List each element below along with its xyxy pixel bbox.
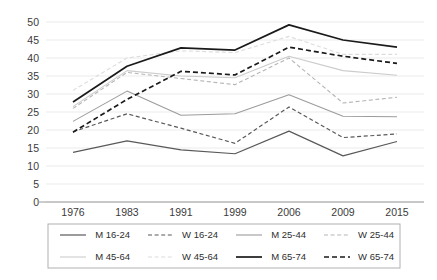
series-line-w-25-44 <box>73 58 397 108</box>
chart-canvas: 05101520253035404550 1976198319911999200… <box>0 0 437 280</box>
y-tick-label: 15 <box>27 142 39 154</box>
legend-label: M 65-74 <box>271 251 306 262</box>
y-axis-ticks: 05101520253035404550 <box>27 16 39 208</box>
legend-label: W 25-44 <box>358 229 394 240</box>
x-tick-label: 1991 <box>169 206 193 218</box>
y-tick-label: 30 <box>27 88 39 100</box>
x-tick-label: 2006 <box>277 206 301 218</box>
series-line-w-45-64 <box>73 36 397 90</box>
y-tick-label: 50 <box>27 16 39 28</box>
y-tick-label: 40 <box>27 52 39 64</box>
legend-label: M 25-44 <box>271 229 306 240</box>
x-tick-label: 2009 <box>331 206 355 218</box>
series-line-w-65-74 <box>73 47 397 132</box>
y-tick-label: 35 <box>27 70 39 82</box>
y-tick-label: 45 <box>27 34 39 46</box>
legend-label: M 16-24 <box>95 229 130 240</box>
x-axis-ticks: 1976198319911999200620092015 <box>61 206 409 218</box>
y-tick-label: 25 <box>27 106 39 118</box>
y-tick-label: 20 <box>27 124 39 136</box>
legend-label: W 45-64 <box>182 251 218 262</box>
y-tick-label: 10 <box>27 160 39 172</box>
legend-label: W 65-74 <box>358 251 394 262</box>
series-line-m-45-64 <box>73 56 397 106</box>
legend-label: M 45-64 <box>95 251 130 262</box>
x-tick-label: 1983 <box>115 206 139 218</box>
x-tick-label: 1976 <box>61 206 85 218</box>
series-line-m-65-74 <box>73 25 397 102</box>
y-tick-label: 5 <box>33 178 39 190</box>
series-line-w-16-24 <box>73 107 397 143</box>
gridlines <box>46 22 424 202</box>
x-tick-label: 1999 <box>223 206 247 218</box>
series-lines <box>73 25 397 156</box>
series-line-m-25-44 <box>73 91 397 121</box>
x-tick-label: 2015 <box>385 206 409 218</box>
chart-legend: M 16-24W 16-24M 25-44W 25-44M 45-64W 45-… <box>48 224 400 268</box>
legend-label: W 16-24 <box>182 229 218 240</box>
line-chart: 05101520253035404550 1976198319911999200… <box>0 0 437 280</box>
